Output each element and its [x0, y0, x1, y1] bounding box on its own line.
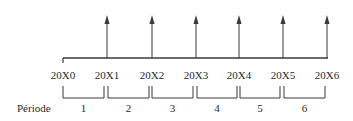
period-brackets: [63, 86, 325, 98]
period-number: 5: [257, 102, 263, 114]
arrow-up-icon: [194, 15, 199, 24]
period-number: 6: [302, 102, 308, 114]
year-label: 20X0: [51, 69, 75, 81]
arrow-up-icon: [105, 15, 110, 24]
timeline-axis: [63, 58, 328, 63]
year-label: 20X1: [95, 69, 119, 81]
period-bracket: [63, 86, 104, 98]
timeline-graphic: [0, 0, 353, 121]
arrow-up-icon: [237, 15, 242, 24]
period-number: 3: [170, 102, 176, 114]
arrow-up-icon: [325, 15, 330, 24]
period-bracket: [197, 86, 237, 98]
period-bracket: [284, 86, 325, 98]
cash-flow-arrows: [105, 15, 330, 58]
period-bracket: [240, 86, 280, 98]
year-label: 20X6: [315, 69, 339, 81]
year-label: 20X2: [140, 69, 164, 81]
arrow-up-icon: [281, 15, 286, 24]
period-number: 4: [214, 102, 220, 114]
period-number: 1: [81, 102, 87, 114]
period-bracket: [152, 86, 193, 98]
period-number: 2: [126, 102, 132, 114]
year-label: 20X3: [184, 69, 208, 81]
arrow-up-icon: [150, 15, 155, 24]
year-label: 20X5: [271, 69, 295, 81]
year-label: 20X4: [227, 69, 251, 81]
period-bracket: [108, 86, 149, 98]
period-title: Période: [17, 102, 51, 114]
